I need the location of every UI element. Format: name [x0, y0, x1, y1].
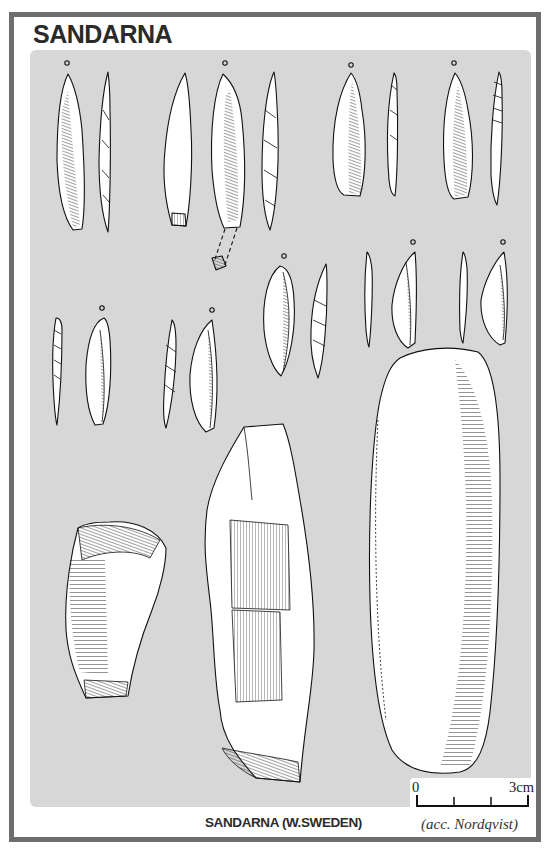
artifact-blade-1 — [57, 61, 110, 232]
artifact-core-2 — [205, 424, 314, 782]
scale-bar — [417, 795, 528, 806]
artifact-blade-4 — [443, 61, 502, 205]
artifact-core-1 — [66, 522, 166, 698]
artifact-blade-7 — [460, 240, 508, 345]
scale-end-label: 3cm — [509, 779, 534, 796]
scale-start-label: 0 — [412, 779, 419, 796]
artifact-blade-9 — [164, 308, 217, 432]
artifact-blade-5 — [264, 254, 327, 378]
figure-credit: (acc. Nordqvist) — [421, 816, 518, 833]
artifact-blade-6 — [365, 240, 417, 348]
figure-caption: SANDARNA (W.SWEDEN) — [205, 815, 362, 830]
artifact-illustrations — [0, 0, 560, 854]
artifact-blade-2 — [164, 61, 278, 270]
artifact-pebble-1 — [369, 348, 500, 773]
artifact-blade-8 — [53, 306, 111, 425]
artifact-blade-3 — [333, 63, 398, 196]
